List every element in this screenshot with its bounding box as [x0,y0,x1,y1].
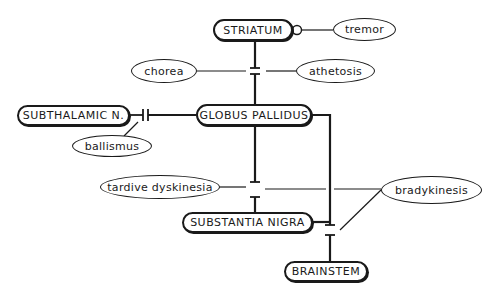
node-striatum: STRIATUM [213,19,293,41]
disorder-chorea: chorea [131,59,197,83]
edge-gp-brainstem [312,115,330,225]
disorder-tardive-dyskinesia: tardive dyskinesia [100,175,220,199]
node-globus-pallidus: GLOBUS PALLIDUS [196,104,312,126]
disorder-bradykinesis: bradykinesis [381,176,482,204]
node-substantia-nigra: SUBSTANTIA NIGRA [182,212,313,233]
disorder-ballismus: ballismus [72,135,152,157]
diagram-canvas: STRIATUM GLOBUS PALLIDUS SUBTHALAMIC N. … [0,0,497,295]
disorder-athetosis: athetosis [296,59,375,83]
striatum-port-circle [293,26,302,35]
edge-bradykinesis-diagonal [340,190,381,230]
disorder-tremor: tremor [333,18,396,41]
edge-ballismus [124,122,138,136]
node-brainstem: BRAINSTEM [284,261,368,282]
node-subthalamic: SUBTHALAMIC N. [17,105,130,126]
